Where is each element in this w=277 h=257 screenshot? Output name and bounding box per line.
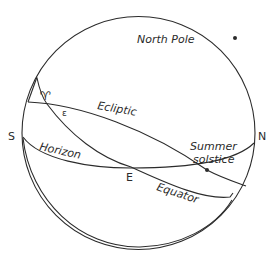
- north-pole-dot: [233, 36, 237, 40]
- south-label: S: [8, 130, 15, 143]
- vernal-equinox-symbol: ♈: [40, 89, 51, 103]
- left-meridian-segment: [28, 77, 37, 102]
- ecliptic-label: Ecliptic: [96, 99, 137, 119]
- north-label: N: [258, 130, 266, 143]
- summer-solstice-label-line1: Summer: [190, 140, 238, 153]
- equator-line: [37, 78, 233, 197]
- obliquity-symbol: ε: [62, 108, 67, 118]
- summer-solstice-label-line2: solstice: [193, 153, 235, 166]
- north-pole-label: North Pole: [137, 33, 195, 46]
- east-label: E: [126, 171, 133, 184]
- equator-label: Equator: [155, 180, 202, 206]
- summer-solstice-dot: [205, 168, 209, 172]
- celestial-sphere-diagram: North Pole ♈ ε Ecliptic Summer solstice …: [0, 0, 277, 257]
